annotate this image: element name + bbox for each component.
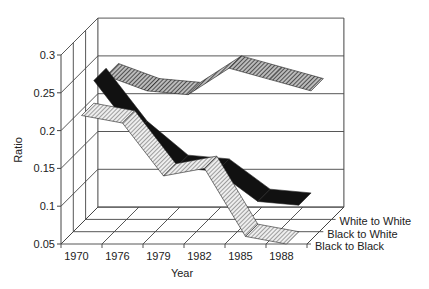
y-tick-label: 0.25 bbox=[34, 87, 55, 99]
legend-label: Black to White bbox=[327, 228, 397, 240]
chart: 0.050.10.150.20.250.31970197619791982198… bbox=[0, 0, 429, 289]
x-tick-label: 1982 bbox=[187, 250, 211, 262]
y-axis-label: Ratio bbox=[12, 137, 24, 163]
x-tick-label: 1976 bbox=[105, 250, 129, 262]
series-ribbon-black-to-white bbox=[94, 68, 311, 205]
y-tick-label: 0.15 bbox=[34, 162, 55, 174]
y-tick-label: 0.3 bbox=[40, 49, 55, 61]
x-tick-label: 1979 bbox=[146, 250, 170, 262]
x-tick-label: 1970 bbox=[64, 250, 88, 262]
x-tick-label: 1985 bbox=[228, 250, 252, 262]
series-ribbon-white-to-white bbox=[106, 56, 323, 95]
y-tick-label: 0.1 bbox=[40, 200, 55, 212]
legend-label: Black to Black bbox=[315, 240, 385, 252]
x-tick-label: 1988 bbox=[269, 250, 293, 262]
x-axis-label: Year bbox=[171, 267, 194, 279]
y-tick-label: 0.2 bbox=[40, 125, 55, 137]
series-ribbon-black-to-black bbox=[82, 103, 299, 244]
data-ribbons bbox=[82, 56, 324, 244]
chart-walls bbox=[57, 18, 344, 248]
legend-label: White to White bbox=[340, 215, 412, 227]
y-tick-label: 0.05 bbox=[34, 238, 55, 250]
